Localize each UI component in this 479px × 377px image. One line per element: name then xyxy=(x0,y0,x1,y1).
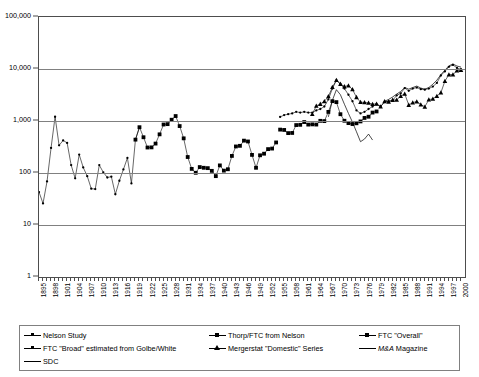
data-point xyxy=(190,167,194,171)
x-axis-tick-label: 1988 xyxy=(415,283,421,297)
data-point xyxy=(222,169,226,173)
x-axis-tick-mark xyxy=(311,278,312,281)
x-axis-tick-label: 1922 xyxy=(150,283,156,297)
x-axis-tick-mark xyxy=(118,278,119,281)
data-point xyxy=(334,78,339,82)
x-axis-tick-mark xyxy=(187,278,188,281)
legend-marker-line-icon xyxy=(24,357,41,366)
x-axis-tick-mark xyxy=(219,278,220,281)
x-axis-tick-mark xyxy=(319,278,320,281)
x-axis-tick-label: 1901 xyxy=(65,283,71,297)
x-axis-tick-label: 1907 xyxy=(89,283,95,297)
x-axis-tick-label: 2000 xyxy=(463,283,469,297)
x-axis-tick-mark xyxy=(138,278,139,281)
legend-marker-dot-icon xyxy=(24,331,41,340)
series-ftc-broad-estimated-from-golbe-white xyxy=(279,64,462,118)
x-axis-tick-mark xyxy=(335,278,336,281)
y-axis-tick-label: 1 xyxy=(27,272,31,279)
y-axis-tick-label: 100,000 xyxy=(5,12,31,19)
x-axis-tick-mark xyxy=(102,278,103,281)
x-axis-tick-label: 1925 xyxy=(162,283,168,297)
x-axis-tick-mark xyxy=(58,278,59,281)
data-point xyxy=(432,85,434,87)
data-point xyxy=(270,147,274,151)
x-axis-tick-mark xyxy=(287,278,288,281)
data-point xyxy=(134,138,138,142)
x-axis-tick-mark xyxy=(199,278,200,281)
y-axis-tick-label: 100 xyxy=(19,168,31,175)
x-axis-tick-mark xyxy=(94,278,95,281)
x-axis-tick-mark xyxy=(299,278,300,281)
data-point xyxy=(291,112,293,114)
data-point xyxy=(274,141,278,145)
x-axis-tick-mark xyxy=(283,278,284,281)
legend-row: SDC xyxy=(24,355,459,368)
x-axis-tick-mark xyxy=(420,278,421,281)
x-axis-tick-mark xyxy=(327,278,328,281)
x-axis-tick-mark xyxy=(110,278,111,281)
x-axis-tick-mark xyxy=(376,278,377,281)
gridline xyxy=(39,173,465,174)
data-point xyxy=(86,175,88,177)
data-point xyxy=(262,152,266,156)
data-point xyxy=(178,124,182,128)
x-axis-tick-label: 1955 xyxy=(282,283,288,297)
x-axis-tick-mark xyxy=(147,278,148,281)
data-point xyxy=(234,145,238,149)
data-point xyxy=(310,122,314,126)
data-point xyxy=(359,112,361,114)
data-point xyxy=(286,131,290,135)
data-point xyxy=(339,112,343,116)
data-point xyxy=(214,174,218,178)
data-point xyxy=(98,164,100,166)
data-point xyxy=(218,164,222,168)
x-axis-tick-mark xyxy=(368,278,369,281)
x-axis-tick-label: 1982 xyxy=(391,283,397,297)
x-axis-tick-mark xyxy=(456,278,457,281)
data-point xyxy=(58,144,60,146)
x-axis-tick-mark xyxy=(323,278,324,281)
data-point xyxy=(66,142,68,144)
series-line xyxy=(312,70,461,114)
x-axis: 1895189819011904190719101913191619191922… xyxy=(38,278,466,320)
legend-marker-square-icon xyxy=(359,331,376,340)
data-point xyxy=(150,145,154,149)
x-axis-tick-mark xyxy=(307,278,308,281)
data-point xyxy=(363,116,367,120)
x-axis-tick-mark xyxy=(279,278,280,281)
data-point xyxy=(50,147,52,149)
data-point xyxy=(287,113,289,115)
x-axis-tick-mark xyxy=(396,278,397,281)
data-point xyxy=(186,155,190,159)
x-axis-tick-mark xyxy=(171,278,172,281)
legend-marker-line-icon xyxy=(359,344,376,353)
x-axis-tick-label: 1958 xyxy=(294,283,300,297)
x-axis-tick-label: 1913 xyxy=(113,283,119,297)
x-axis-tick-mark xyxy=(46,278,47,281)
x-axis-tick-mark xyxy=(404,278,405,281)
data-point xyxy=(278,128,282,132)
data-point xyxy=(118,180,120,182)
x-axis-tick-mark xyxy=(355,278,356,281)
legend-label: FTC "Overall" xyxy=(378,332,423,340)
data-point xyxy=(315,109,317,111)
x-axis-tick-label: 1940 xyxy=(222,283,228,297)
data-point xyxy=(310,112,315,116)
x-axis-tick-mark xyxy=(130,278,131,281)
data-point xyxy=(408,90,410,92)
data-point xyxy=(346,83,351,87)
data-point xyxy=(138,125,142,129)
legend-marker-triangle-icon xyxy=(209,344,226,353)
x-axis-tick-mark xyxy=(347,278,348,281)
x-axis-tick-mark xyxy=(195,278,196,281)
data-point xyxy=(327,98,329,100)
data-point xyxy=(202,166,206,170)
x-axis-tick-label: 1916 xyxy=(125,283,131,297)
data-point xyxy=(367,115,371,119)
data-point xyxy=(126,157,128,159)
x-axis-tick-label: 1928 xyxy=(174,283,180,297)
x-axis-tick-mark xyxy=(78,278,79,281)
x-axis-tick-mark xyxy=(90,278,91,281)
data-point xyxy=(347,94,349,96)
data-point xyxy=(402,91,407,95)
